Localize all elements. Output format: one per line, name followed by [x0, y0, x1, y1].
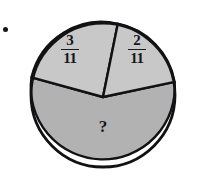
pie-chart-graphic: [0, 0, 198, 180]
slice-label-two-elevenths: 2 11: [117, 33, 157, 67]
fraction-three-elevenths: 3 11: [61, 33, 79, 67]
fraction-two-elevenths: 2 11: [128, 33, 146, 67]
slice-label-three-elevenths: 3 11: [50, 33, 90, 67]
fraction-numerator: 3: [61, 33, 79, 48]
pie-chart-figure: 3 11 2 11 ?: [0, 0, 198, 180]
fraction-numerator: 2: [128, 33, 146, 48]
slice-label-unknown: ?: [85, 118, 121, 135]
fraction-denominator: 11: [61, 51, 79, 66]
fraction-denominator: 11: [128, 51, 146, 66]
